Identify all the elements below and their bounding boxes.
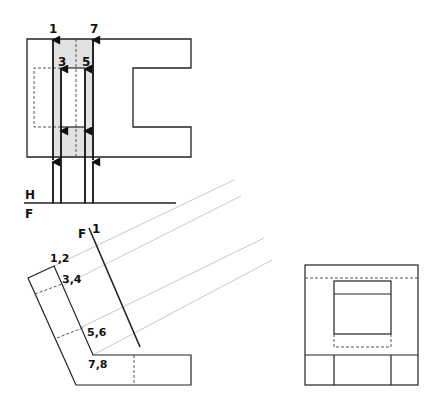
projector-1-2 — [54, 180, 234, 266]
label-5-6: 5,6 — [87, 326, 107, 339]
label-3-4: 3,4 — [62, 273, 82, 286]
label-7-8: 7,8 — [88, 358, 108, 371]
side-opening — [334, 281, 391, 334]
fold-line-hf: H F — [24, 188, 176, 221]
label-f-aux: F — [78, 227, 86, 241]
front-view: 1,2 3,4 5,6 7,8 — [28, 252, 191, 385]
technical-drawing: 1 7 3 5 H F 1,2 3,4 5,6 7,8 F 1 — [0, 0, 439, 404]
label-1-2: 1,2 — [50, 252, 70, 265]
label-point-1: 1 — [49, 22, 57, 36]
label-point-7: 7 — [90, 22, 98, 36]
side-view — [305, 265, 418, 385]
projector-3-4 — [62, 196, 241, 286]
top-view: 1 7 3 5 — [27, 22, 191, 203]
label-h: H — [25, 188, 35, 202]
inner-opening — [61, 68, 85, 127]
projector-7-8 — [93, 260, 272, 355]
projector-5-6 — [80, 238, 264, 328]
hidden-line-5-6 — [57, 327, 85, 338]
side-hidden-opening — [334, 334, 391, 347]
hidden-line-3-4 — [35, 284, 62, 294]
label-1-aux: 1 — [92, 222, 100, 236]
front-view-outline — [28, 266, 191, 385]
side-view-outline — [305, 265, 418, 385]
label-point-3: 3 — [58, 55, 66, 69]
label-f: F — [25, 207, 33, 221]
top-view-outline — [27, 39, 191, 157]
label-point-5: 5 — [82, 55, 90, 69]
